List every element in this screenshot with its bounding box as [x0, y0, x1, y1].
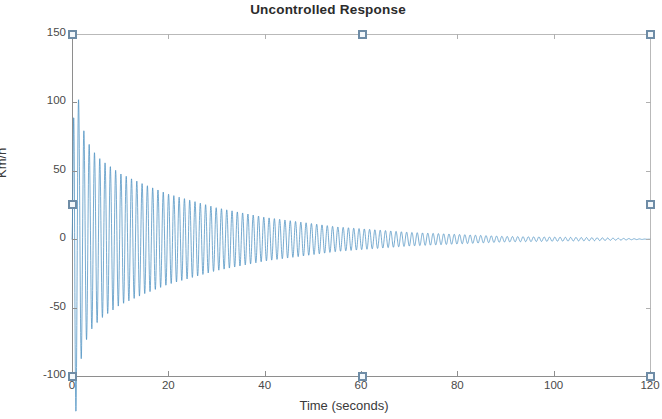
y-tick-mark-right: [646, 308, 651, 309]
handle-top-left[interactable]: [68, 30, 77, 39]
handle-top-right[interactable]: [646, 30, 655, 39]
y-tick-label: 100: [6, 94, 66, 106]
x-tick-mark: [457, 371, 458, 376]
chart-title-text: Uncontrolled Response: [250, 2, 406, 17]
chart-title: Uncontrolled Response: [0, 2, 662, 17]
y-tick-mark-right: [646, 171, 651, 172]
handle-bottom-center[interactable]: [358, 372, 367, 381]
x-tick-label: 20: [138, 379, 198, 391]
matlab-figure-canvas[interactable]: Uncontrolled Response -100-50050100150 0…: [0, 0, 662, 419]
x-tick-mark-top: [554, 34, 555, 39]
y-tick-mark: [72, 239, 77, 240]
y-tick-mark: [72, 102, 77, 103]
y-tick-mark: [72, 308, 77, 309]
handle-bottom-left[interactable]: [68, 372, 77, 381]
y-tick-mark: [72, 171, 77, 172]
x-tick-label: 80: [427, 379, 487, 391]
response-curve: [72, 34, 650, 376]
y-tick-mark-right: [646, 102, 651, 103]
x-tick-label: 40: [235, 379, 295, 391]
x-tick-mark-top: [168, 34, 169, 39]
y-tick-mark-right: [646, 239, 651, 240]
handle-middle-right[interactable]: [646, 200, 655, 209]
x-tick-mark-top: [265, 34, 266, 39]
y-tick-label: -50: [6, 300, 66, 312]
x-tick-mark: [554, 371, 555, 376]
y-axis-label: Km/h: [0, 148, 9, 178]
x-tick-label: 120: [620, 379, 662, 391]
x-axis-label: Time (seconds): [0, 398, 662, 413]
handle-bottom-right[interactable]: [646, 372, 655, 381]
y-tick-label: 150: [6, 26, 66, 38]
x-tick-label: 100: [524, 379, 584, 391]
x-tick-mark-top: [457, 34, 458, 39]
y-tick-label: 50: [6, 163, 66, 175]
x-tick-mark: [168, 371, 169, 376]
y-tick-label: 0: [6, 231, 66, 243]
x-tick-mark: [265, 371, 266, 376]
handle-top-center[interactable]: [358, 30, 367, 39]
handle-middle-left[interactable]: [68, 200, 77, 209]
